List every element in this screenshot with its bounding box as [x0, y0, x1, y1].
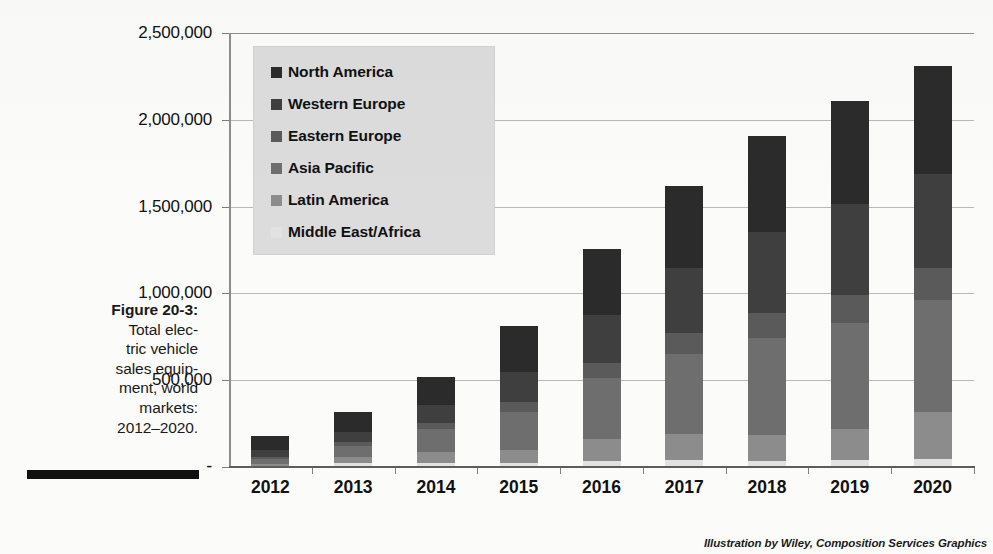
bar-segment [583, 363, 621, 379]
y-axis-label: 1,000,000 [62, 284, 212, 301]
bar-2012 [251, 436, 289, 466]
bar-segment [583, 315, 621, 363]
bar-segment [251, 457, 289, 459]
bar-segment [500, 412, 538, 449]
caption-line-6: 2012–2020. [0, 418, 198, 438]
x-axis-label-2015: 2015 [477, 477, 560, 498]
bar-segment [583, 439, 621, 461]
bar-2018 [748, 136, 786, 466]
bar-segment [334, 432, 372, 442]
bar-segment [500, 372, 538, 402]
y-axis-label: 2,000,000 [62, 111, 212, 128]
legend-item: Latin America [271, 189, 389, 211]
bar-2015 [500, 326, 538, 466]
legend-swatch-icon [271, 99, 282, 110]
bar-segment [583, 249, 621, 315]
bar-2019 [831, 101, 869, 466]
legend-item: North America [271, 61, 393, 83]
legend-item: Western Europe [271, 93, 405, 115]
y-axis-label: 1,500,000 [62, 198, 212, 215]
bar-segment [914, 268, 952, 299]
bar-segment [914, 300, 952, 413]
caption-line-1: Total elec- [0, 320, 198, 340]
caption-line-5: markets: [0, 398, 198, 418]
x-axis-line [229, 466, 975, 468]
bar-segment [831, 429, 869, 459]
legend-swatch-icon [271, 163, 282, 174]
legend-label: North America [288, 64, 393, 80]
y-axis-label: 2,500,000 [62, 24, 212, 41]
bar-segment [334, 457, 372, 463]
bar-segment [831, 101, 869, 204]
chart-legend: North AmericaWestern EuropeEastern Europ… [253, 46, 495, 255]
bar-2020 [914, 66, 952, 466]
bar-segment [500, 450, 538, 464]
legend-label: Latin America [288, 192, 389, 208]
y-axis-line [229, 33, 231, 468]
bar-segment [334, 412, 372, 432]
x-axis-label-2017: 2017 [643, 477, 726, 498]
bar-segment [500, 402, 538, 412]
legend-label: Asia Pacific [288, 160, 374, 176]
bar-2017 [665, 186, 703, 466]
gridline [229, 33, 974, 34]
y-axis-label: 500,000 [62, 371, 212, 388]
caption-line-2: tric vehicle [0, 339, 198, 359]
bar-segment [251, 459, 289, 465]
bar-segment [665, 333, 703, 354]
bar-2013 [334, 412, 372, 466]
figure-caption: Figure 20-3: Total elec- tric vehicle sa… [0, 300, 198, 437]
figure-number: Figure 20-3: [0, 300, 198, 320]
bar-segment [665, 434, 703, 460]
bar-segment [417, 423, 455, 429]
bar-segment [831, 323, 869, 429]
legend-item: Eastern Europe [271, 125, 401, 147]
bar-segment [748, 232, 786, 314]
bar-segment [417, 377, 455, 405]
x-axis-label-2020: 2020 [891, 477, 974, 498]
bar-segment [665, 268, 703, 333]
legend-swatch-icon [271, 131, 282, 142]
figure-page: Figure 20-3: Total elec- tric vehicle sa… [0, 0, 993, 554]
legend-label: Middle East/Africa [288, 224, 421, 240]
bar-segment [914, 412, 952, 459]
illustration-credit: Illustration by Wiley, Composition Servi… [704, 537, 987, 549]
legend-label: Eastern Europe [288, 128, 401, 144]
x-axis-label-2019: 2019 [808, 477, 891, 498]
x-axis-label-2012: 2012 [229, 477, 312, 498]
x-axis-label-2013: 2013 [312, 477, 395, 498]
x-axis-label-2014: 2014 [395, 477, 478, 498]
bar-segment [914, 174, 952, 269]
bar-segment [748, 136, 786, 231]
legend-swatch-icon [271, 67, 282, 78]
bar-segment [665, 354, 703, 435]
bar-segment [417, 429, 455, 452]
bar-segment [748, 435, 786, 461]
bar-2014 [417, 377, 455, 466]
bar-segment [748, 313, 786, 338]
figure-number-label: Figure 20-3: [111, 301, 198, 318]
x-axis-label-2018: 2018 [726, 477, 809, 498]
bar-segment [665, 186, 703, 268]
bar-segment [334, 442, 372, 445]
bar-segment [914, 66, 952, 174]
x-axis-label-2016: 2016 [560, 477, 643, 498]
legend-item: Middle East/Africa [271, 221, 421, 243]
bar-segment [417, 405, 455, 423]
bar-segment [251, 450, 289, 457]
bar-segment [748, 338, 786, 434]
bar-segment [334, 446, 372, 458]
bar-segment [251, 436, 289, 450]
legend-swatch-icon [271, 195, 282, 206]
bar-segment [831, 204, 869, 294]
bar-2016 [583, 249, 621, 466]
legend-label: Western Europe [288, 96, 405, 112]
bar-segment [583, 378, 621, 439]
y-axis-label: - [62, 458, 212, 475]
bar-segment [500, 326, 538, 372]
bar-segment [914, 459, 952, 466]
bar-segment [831, 295, 869, 324]
legend-item: Asia Pacific [271, 157, 374, 179]
legend-swatch-icon [271, 227, 282, 238]
bar-segment [417, 452, 455, 463]
